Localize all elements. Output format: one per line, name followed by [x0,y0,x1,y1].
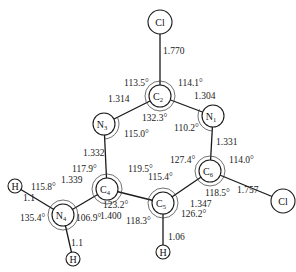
bond-length-label: 1.332 [83,148,105,158]
bond-angle-label: 110.2° [174,123,199,133]
bond-angle-label: 118.5° [205,188,230,198]
atom-N3: N3 [93,113,115,135]
molecule-diagram: ClC2N3N1C4C6C5N4HHHCl 1.7701.3141.3041.3… [0,0,296,272]
bond-angle-label: 114.0° [229,155,254,165]
atom-symbol: H [159,247,166,258]
atom-symbol: H [11,181,18,192]
bond-angle-label: 132.3° [142,113,167,123]
bond-angle-label: 135.4° [20,213,45,223]
bond-length-label: 1.331 [216,137,238,147]
bond-length-label: 1.757 [237,185,259,195]
atom-H_C5: H [156,245,170,259]
atom-N4: N4 [52,204,74,226]
bond-angle-label: 118.3° [126,216,151,226]
bond-length-label: 1.1 [71,238,83,248]
atom-N1: N1 [202,105,224,127]
atom-C4: C4 [96,178,118,200]
bond-angle-label: 115.8° [31,182,56,192]
bond-angle-label: 127.4° [170,155,195,165]
atoms-layer: ClC2N3N1C4C6C5N4HHHCl [8,10,295,266]
bond-angle-label: 113.5° [124,78,149,88]
bond-angle-label: 115.0° [124,129,149,139]
atom-symbol: Cl [278,196,288,207]
atom-symbol: Cl [155,17,165,28]
bond-angle-label: 115.4° [148,172,173,182]
atom-C2: C2 [149,85,171,107]
bond-length-label: 1.1 [23,193,35,203]
atom-symbol: H [69,254,76,265]
atom-C6: C6 [199,160,221,182]
bond-length-label: 1.06 [168,232,185,242]
bond-length-label: 1.770 [163,46,185,56]
bond-angle-label: 114.1° [178,78,203,88]
atom-H_N4_bottom: H [66,252,80,266]
bond-length-label: 1.314 [108,94,130,104]
bond-length-label: 1.400 [100,211,122,221]
bond-angle-label: 123.2° [103,200,128,210]
atom-Cl_right: Cl [271,189,295,213]
bond-angle-label: 117.9° [72,164,97,174]
atom-Cl_top: Cl [148,10,172,34]
atom-H_N4_left: H [8,179,22,193]
atom-C5: C5 [152,192,174,214]
bond-angle-label: 126.2° [181,209,206,219]
bond-length-label: 1.304 [194,91,216,101]
bond-angle-label: 106.9° [76,213,101,223]
bond-length-label: 1.339 [61,175,83,185]
bond-length-label: 1.347 [190,199,212,209]
molecule-svg: ClC2N3N1C4C6C5N4HHHCl 1.7701.3141.3041.3… [0,0,296,272]
